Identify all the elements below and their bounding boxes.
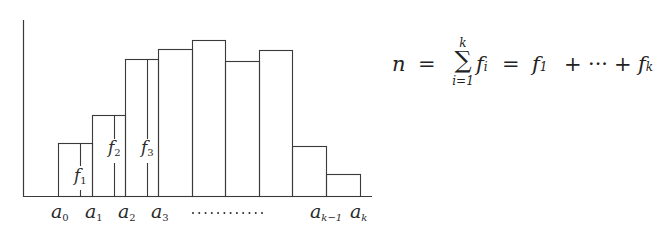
x-tick-label: ak−1 — [310, 200, 342, 223]
ellipsis-dot — [242, 212, 244, 214]
ellipsis-dot — [198, 212, 200, 214]
histogram-bar — [260, 51, 293, 197]
formula-equals-2: = — [502, 52, 520, 76]
formula-fk: fk — [638, 52, 653, 76]
ellipsis-dot — [192, 212, 194, 214]
formula-n: n — [392, 52, 406, 76]
ellipsis-dot — [217, 212, 219, 214]
frequency-label: f1 — [72, 165, 87, 186]
sigma-lower-limit: i=1 — [450, 74, 476, 88]
x-axis-ellipsis — [192, 212, 263, 214]
formula-term: fi — [476, 52, 488, 76]
ellipsis-dot — [255, 212, 257, 214]
x-tick-label: a2 — [118, 200, 136, 223]
formula-equals-1: = — [418, 52, 436, 76]
histogram-bars — [59, 41, 361, 197]
x-axis-labels: a0a1a2a3ak−1ak — [51, 200, 367, 223]
histogram-chart: f1f2f3 a0a1a2a3ak−1ak — [0, 0, 660, 247]
histogram-bar — [226, 62, 260, 197]
histogram-bar — [293, 147, 327, 197]
x-tick-label: a0 — [51, 200, 69, 223]
frequency-markers: f1f2f3 — [72, 59, 154, 196]
histogram-bar — [327, 175, 361, 197]
ellipsis-dot — [230, 212, 232, 214]
x-tick-label: a3 — [151, 200, 169, 223]
histogram-bar — [193, 41, 226, 197]
frequency-label: f3 — [139, 137, 154, 158]
histogram-bar — [159, 50, 193, 197]
ellipsis-dot — [211, 212, 213, 214]
histogram-bar — [126, 60, 159, 197]
ellipsis-dot — [261, 212, 263, 214]
sigma-icon: ∑ — [450, 48, 476, 72]
x-tick-label: a1 — [85, 200, 103, 223]
x-tick-label: ak — [350, 200, 367, 223]
formula-ellipsis: ··· — [588, 52, 608, 76]
ellipsis-dot — [248, 212, 250, 214]
ellipsis-dot — [205, 212, 207, 214]
formula-plus-1: + — [564, 52, 582, 76]
formula-plus-2: + — [614, 52, 632, 76]
formula-f1: f1 — [532, 52, 547, 76]
frequency-label: f2 — [106, 137, 121, 158]
ellipsis-dot — [236, 212, 238, 214]
ellipsis-dot — [223, 212, 225, 214]
